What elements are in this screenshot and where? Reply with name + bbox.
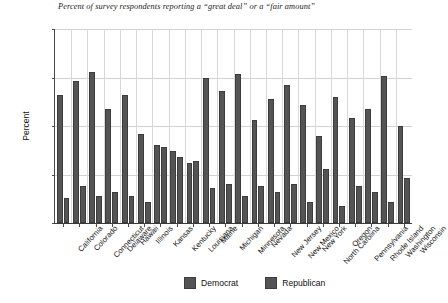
bar-democrat bbox=[57, 95, 63, 223]
bar-democrat bbox=[105, 109, 111, 223]
legend-swatch-democrat bbox=[184, 277, 196, 289]
bar-group bbox=[152, 29, 168, 223]
bar-republican bbox=[356, 186, 362, 223]
bar-group bbox=[217, 29, 233, 223]
bar-democrat bbox=[138, 134, 144, 223]
bar-republican bbox=[388, 202, 394, 223]
chart-legend: DemocratRepublican bbox=[184, 277, 325, 289]
bar-democrat bbox=[268, 99, 274, 223]
legend-item: Democrat bbox=[184, 277, 238, 289]
bar-republican bbox=[96, 196, 102, 223]
bar-democrat bbox=[154, 145, 160, 223]
bar-republican bbox=[275, 192, 281, 223]
bar-democrat bbox=[122, 95, 128, 223]
bar-group bbox=[250, 29, 266, 223]
bar-group bbox=[331, 29, 347, 223]
bar-republican bbox=[193, 161, 199, 223]
y-tick-mark bbox=[52, 175, 55, 176]
y-tick-mark bbox=[52, 29, 55, 30]
bar-group bbox=[298, 29, 314, 223]
bar-republican bbox=[291, 184, 297, 223]
bar-republican bbox=[242, 196, 248, 223]
bar-democrat bbox=[89, 72, 95, 223]
bar-democrat bbox=[284, 85, 290, 223]
bar-republican bbox=[129, 196, 135, 223]
legend-swatch-republican bbox=[265, 277, 277, 289]
bar-republican bbox=[258, 186, 264, 223]
bar-democrat bbox=[365, 109, 371, 223]
bar-democrat bbox=[187, 163, 193, 223]
bar-group bbox=[55, 29, 71, 223]
bar-group bbox=[347, 29, 363, 223]
bar-republican bbox=[64, 198, 70, 223]
bar-democrat bbox=[219, 91, 225, 223]
bar-republican bbox=[177, 157, 183, 223]
bar-democrat bbox=[73, 81, 79, 223]
bar-democrat bbox=[349, 118, 355, 223]
bar-democrat bbox=[398, 126, 404, 223]
bar-group bbox=[87, 29, 103, 223]
bar-republican bbox=[80, 186, 86, 223]
bar-democrat bbox=[381, 76, 387, 223]
chart-title: Percent of survey respondents reporting … bbox=[58, 2, 315, 11]
bar-republican bbox=[404, 178, 410, 223]
bar-group bbox=[315, 29, 331, 223]
bar-republican bbox=[372, 192, 378, 223]
bar-republican bbox=[226, 184, 232, 223]
bar-republican bbox=[145, 202, 151, 223]
bar-group bbox=[185, 29, 201, 223]
bar-group bbox=[396, 29, 412, 223]
bar-republican bbox=[339, 206, 345, 223]
bar-republican bbox=[323, 169, 329, 223]
bar-democrat bbox=[252, 120, 258, 223]
bar-group bbox=[201, 29, 217, 223]
bar-republican bbox=[161, 147, 167, 223]
y-tick-mark bbox=[52, 78, 55, 79]
bar-republican bbox=[210, 188, 216, 223]
bar-republican bbox=[112, 192, 118, 223]
bar-group bbox=[363, 29, 379, 223]
bar-group bbox=[282, 29, 298, 223]
bar-democrat bbox=[170, 151, 176, 223]
bar-group bbox=[120, 29, 136, 223]
bar-group bbox=[136, 29, 152, 223]
y-tick-mark bbox=[52, 126, 55, 127]
legend-label: Democrat bbox=[201, 278, 238, 288]
bar-democrat bbox=[316, 136, 322, 223]
bar-group bbox=[380, 29, 396, 223]
bar-democrat bbox=[235, 74, 241, 223]
bar-democrat bbox=[203, 78, 209, 224]
bar-democrat bbox=[300, 105, 306, 223]
bars-layer bbox=[55, 29, 412, 223]
bar-group bbox=[104, 29, 120, 223]
plot-area: 0255075100 Percent bbox=[54, 29, 412, 224]
bar-group bbox=[234, 29, 250, 223]
bar-republican bbox=[307, 202, 313, 223]
x-tick-label: Maine bbox=[219, 224, 240, 245]
legend-item: Republican bbox=[265, 277, 325, 289]
bar-group bbox=[71, 29, 87, 223]
bar-group bbox=[266, 29, 282, 223]
x-axis-labels: CaliforniaColoradoConnecticutDelawareHaw… bbox=[54, 224, 411, 280]
bar-group bbox=[169, 29, 185, 223]
y-axis-title: Percent bbox=[21, 111, 31, 140]
bar-democrat bbox=[333, 97, 339, 223]
legend-label: Republican bbox=[282, 278, 325, 288]
